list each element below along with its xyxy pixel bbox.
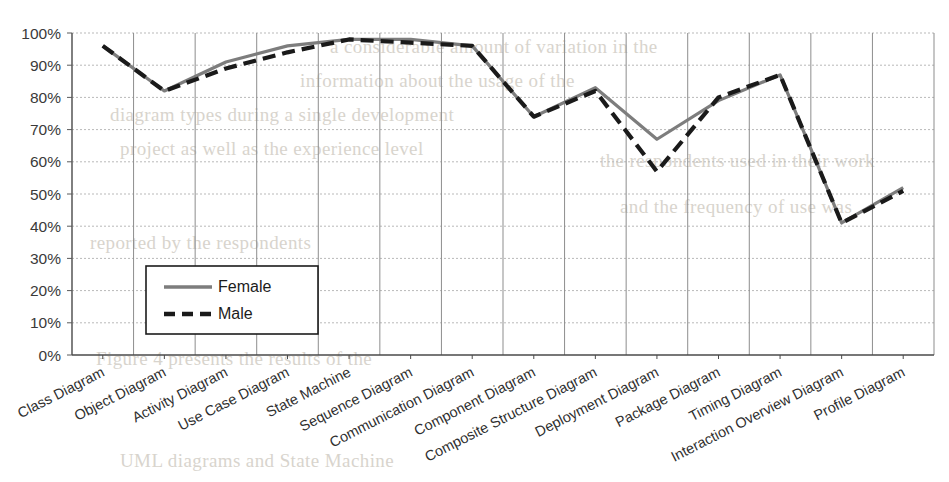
chart-legend: FemaleMale bbox=[146, 266, 318, 334]
legend-label-male: Male bbox=[218, 305, 253, 322]
x-axis-tick-label: Package Diagram bbox=[613, 364, 723, 431]
x-axis-tick-labels: Class DiagramObject DiagramActivity Diag… bbox=[15, 355, 907, 465]
y-axis-tick-label: 30% bbox=[30, 250, 61, 267]
y-axis-tick-label: 100% bbox=[21, 25, 61, 42]
legend-label-female: Female bbox=[218, 278, 271, 295]
y-axis-tick-label: 80% bbox=[30, 89, 61, 106]
x-axis-tick-label: Use Case Diagram bbox=[175, 364, 291, 434]
y-axis-tick-label: 10% bbox=[30, 314, 61, 331]
chart-container: a considerable amount of variation in th… bbox=[0, 0, 949, 482]
legend-border bbox=[146, 266, 318, 334]
y-axis-tick-labels: 0%10%20%30%40%50%60%70%80%90%100% bbox=[21, 25, 72, 364]
line-chart-plot: 0%10%20%30%40%50%60%70%80%90%100% Class … bbox=[0, 0, 949, 482]
y-axis-tick-label: 60% bbox=[30, 153, 61, 170]
y-axis-tick-label: 70% bbox=[30, 121, 61, 138]
y-axis-tick-label: 0% bbox=[39, 347, 62, 364]
y-axis-tick-label: 40% bbox=[30, 218, 61, 235]
y-axis-tick-label: 90% bbox=[30, 57, 61, 74]
y-axis-tick-label: 50% bbox=[30, 186, 61, 203]
y-axis-tick-label: 20% bbox=[30, 282, 61, 299]
